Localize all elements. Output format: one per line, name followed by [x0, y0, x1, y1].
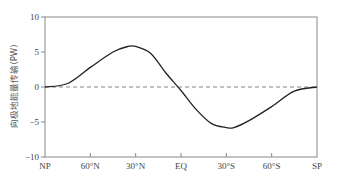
- y-tick-label: 0: [35, 82, 40, 92]
- chart-plot: 1050−5−10 NP60°N30°NEQ30°S60°SSP: [0, 0, 338, 179]
- y-tick-label: −5: [29, 117, 39, 127]
- x-axis: NP60°N30°NEQ30°S60°SSP: [39, 153, 322, 171]
- x-tick-label: 30°S: [218, 161, 236, 171]
- y-axis: 1050−5−10: [25, 12, 45, 162]
- x-tick-label: EQ: [175, 161, 187, 171]
- x-tick-label: 60°S: [263, 161, 281, 171]
- x-tick-label: SP: [312, 161, 322, 171]
- chart: 向极地能量传输(PW) 1050−5−10 NP60°N30°NEQ30°S60…: [0, 0, 338, 179]
- x-tick-label: 60°N: [81, 161, 101, 171]
- y-tick-label: 10: [30, 12, 40, 22]
- x-tick-label: 30°N: [126, 161, 146, 171]
- y-axis-label: 向极地能量传输(PW): [7, 21, 19, 151]
- x-tick-label: NP: [39, 161, 51, 171]
- y-tick-label: −10: [25, 152, 40, 162]
- y-tick-label: 5: [35, 47, 40, 57]
